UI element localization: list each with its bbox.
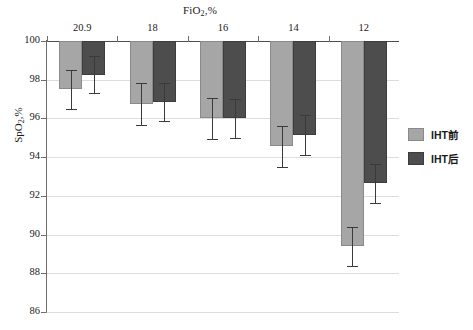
bar-chart: FiO2,% SpO2,% 10098969492908886 IHT前IHT后… [0, 0, 473, 330]
legend-label: IHT后 [431, 151, 458, 166]
x-tick-label: 20.9 [52, 22, 112, 33]
error-bar-line [305, 115, 306, 156]
y-tick-mark [41, 273, 46, 274]
x-tick-mark [329, 36, 330, 42]
legend-item[interactable]: IHT前 [408, 128, 458, 141]
error-bar-line [352, 227, 353, 266]
error-bar-line [235, 99, 236, 138]
y-tick-mark [41, 235, 46, 236]
x-tick-label: 12 [334, 22, 394, 33]
error-bar-cap-lower [370, 203, 381, 204]
error-bar-cap-lower [300, 155, 311, 156]
legend-item[interactable]: IHT后 [408, 152, 458, 165]
chart-title-suffix: ,% [205, 4, 217, 16]
x-tick-mark [47, 36, 48, 42]
y-tick-mark [41, 196, 46, 197]
error-bar-cap-lower [89, 93, 100, 94]
error-bar-cap-upper [370, 164, 381, 165]
y-tick-mark [41, 80, 46, 81]
error-bar-cap-lower [136, 125, 147, 126]
error-bar-cap-upper [66, 70, 77, 71]
x-tick-label: 14 [263, 22, 323, 33]
error-bar-line [94, 56, 95, 93]
y-tick-label: 94 [6, 151, 40, 161]
error-bar-line [282, 126, 283, 167]
y-tick-mark [41, 157, 46, 158]
y-tick-label: 88 [6, 267, 40, 277]
error-bar-cap-lower [347, 266, 358, 267]
error-bar-cap-lower [159, 121, 170, 122]
error-bar-cap-lower [66, 109, 77, 110]
bar-pre [341, 41, 364, 246]
gridline [47, 312, 399, 313]
y-tick-label: 86 [6, 306, 40, 316]
error-bar-cap-lower [277, 167, 288, 168]
y-axis-label-prefix: SpO [12, 123, 24, 143]
error-bar-line [71, 70, 72, 109]
y-tick-mark [41, 118, 46, 119]
x-tick-mark [188, 36, 189, 42]
chart-title: FiO2,% [0, 4, 400, 18]
legend-label: IHT前 [431, 127, 458, 142]
x-tick-label: 16 [193, 22, 253, 33]
error-bar-cap-upper [159, 83, 170, 84]
error-bar-cap-upper [277, 126, 288, 127]
x-tick-mark [258, 36, 259, 42]
error-bar-cap-lower [230, 138, 241, 139]
gridline [47, 273, 399, 274]
error-bar-cap-upper [347, 227, 358, 228]
chart-legend: IHT前IHT后 [408, 128, 458, 176]
y-tick-label: 100 [6, 35, 40, 45]
x-tick-label: 18 [123, 22, 183, 33]
bar-post [364, 41, 387, 183]
error-bar-line [212, 98, 213, 139]
error-bar-cap-upper [300, 115, 311, 116]
y-tick-label: 96 [6, 112, 40, 122]
error-bar-cap-upper [136, 83, 147, 84]
x-tick-mark [117, 36, 118, 42]
legend-swatch-icon [408, 128, 424, 141]
y-tick-label: 90 [6, 229, 40, 239]
legend-swatch-icon [408, 152, 424, 165]
error-bar-line [375, 164, 376, 203]
error-bar-cap-upper [207, 98, 218, 99]
error-bar-line [164, 83, 165, 122]
error-bar-cap-upper [230, 99, 241, 100]
error-bar-cap-upper [89, 56, 100, 57]
error-bar-cap-lower [207, 139, 218, 140]
chart-title-prefix: FiO [183, 4, 201, 16]
y-tick-label: 92 [6, 190, 40, 200]
y-tick-mark [41, 41, 46, 42]
error-bar-line [141, 83, 142, 126]
y-tick-label: 98 [6, 74, 40, 84]
y-tick-mark [41, 312, 46, 313]
